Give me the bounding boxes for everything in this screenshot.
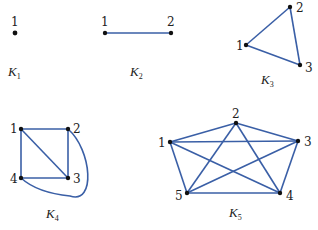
vertex-label: 2 bbox=[73, 122, 81, 136]
graph-k3: 1 2 3 K3 bbox=[236, 1, 313, 89]
vertex bbox=[288, 5, 292, 9]
vertex-label: 4 bbox=[10, 172, 18, 186]
vertex-label: 1 bbox=[158, 136, 166, 150]
vertex-label: 2 bbox=[296, 1, 304, 15]
vertex-label: 1 bbox=[236, 39, 244, 53]
edge bbox=[290, 7, 300, 65]
vertex bbox=[103, 31, 107, 35]
edge bbox=[170, 142, 187, 193]
vertex bbox=[66, 176, 70, 180]
edge bbox=[246, 7, 290, 45]
edge bbox=[170, 123, 236, 142]
edge bbox=[21, 129, 68, 178]
vertex-label: 3 bbox=[305, 61, 313, 75]
vertex bbox=[298, 63, 302, 67]
vertex bbox=[244, 43, 248, 47]
vertex bbox=[185, 191, 189, 195]
edge bbox=[187, 141, 298, 193]
vertex bbox=[169, 31, 173, 35]
vertex-label: 1 bbox=[11, 15, 19, 29]
graph-label: K3 bbox=[260, 72, 274, 89]
edge bbox=[170, 141, 298, 142]
vertex-label: 2 bbox=[167, 15, 175, 29]
complete-graphs-diagram: 1 K1 1 2 K2 1 2 3 K3 1 2 3 bbox=[0, 0, 318, 230]
graph-label: K1 bbox=[7, 64, 21, 81]
vertex-label: 2 bbox=[232, 107, 240, 121]
vertex bbox=[168, 140, 172, 144]
vertex bbox=[19, 176, 23, 180]
graph-k2: 1 2 K2 bbox=[101, 15, 175, 81]
vertex bbox=[234, 121, 238, 125]
vertex-label: 4 bbox=[286, 189, 294, 203]
vertex bbox=[13, 31, 18, 36]
graph-k4: 1 2 3 4 K4 bbox=[10, 122, 88, 223]
vertex bbox=[19, 127, 23, 131]
graph-label: K4 bbox=[45, 206, 59, 223]
graph-k1: 1 K1 bbox=[7, 15, 21, 81]
vertex-label: 5 bbox=[175, 189, 183, 203]
vertex bbox=[66, 127, 70, 131]
vertex-label: 1 bbox=[101, 15, 109, 29]
vertex-label: 3 bbox=[73, 172, 81, 186]
vertex-label: 1 bbox=[10, 122, 18, 136]
edge bbox=[246, 45, 300, 65]
graph-label: K2 bbox=[129, 64, 143, 81]
graph-k5: 1 2 3 4 5 K5 bbox=[158, 107, 312, 222]
graph-label: K5 bbox=[228, 205, 242, 222]
vertex bbox=[296, 139, 300, 143]
vertex-label: 3 bbox=[304, 135, 312, 149]
vertex bbox=[278, 191, 282, 195]
edge bbox=[187, 123, 236, 193]
